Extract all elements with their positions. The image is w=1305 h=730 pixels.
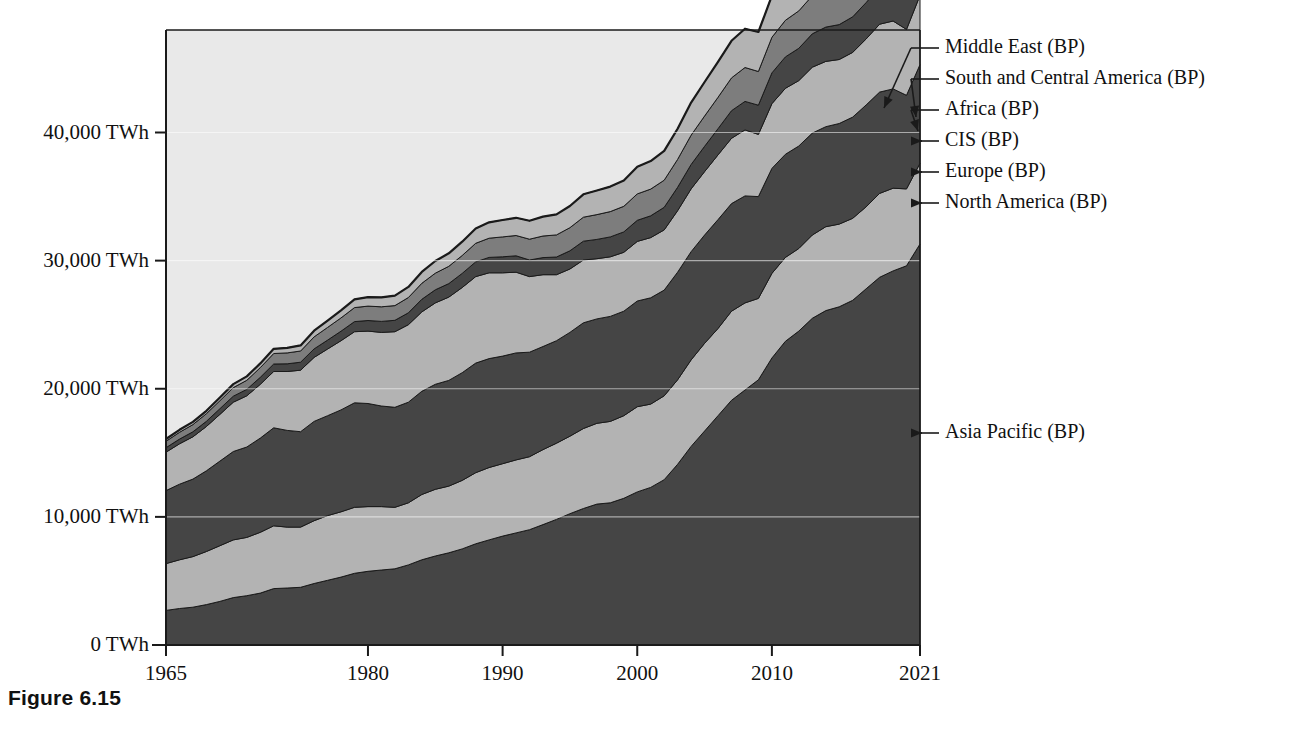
callout-label-europe: Europe (BP) <box>945 159 1046 182</box>
figure-caption: Figure 6.15 <box>8 686 121 710</box>
stacked-area-chart <box>0 0 1305 730</box>
callout-label-north-america: North America (BP) <box>945 190 1107 213</box>
callout-label-africa: Africa (BP) <box>945 97 1039 120</box>
y-tick-label: 30,000 TWh <box>43 248 149 273</box>
callout-label-asia-pacific: Asia Pacific (BP) <box>945 420 1085 443</box>
x-tick-label: 1965 <box>121 661 211 686</box>
y-tick-label: 10,000 TWh <box>43 504 149 529</box>
y-tick-label: 0 TWh <box>90 632 149 657</box>
callout-label-middle-east: Middle East (BP) <box>945 35 1085 58</box>
x-tick-label: 2010 <box>727 661 817 686</box>
y-tick-label: 40,000 TWh <box>43 120 149 145</box>
x-tick-label: 2000 <box>592 661 682 686</box>
callout-label-south-central-america: South and Central America (BP) <box>945 66 1205 89</box>
y-tick-label: 20,000 TWh <box>43 376 149 401</box>
figure-container: 0 TWh10,000 TWh20,000 TWh30,000 TWh40,00… <box>0 0 1305 730</box>
x-tick-label: 1980 <box>323 661 413 686</box>
x-tick-label: 1990 <box>458 661 548 686</box>
callout-label-cis: CIS (BP) <box>945 128 1019 151</box>
x-tick-label: 2021 <box>875 661 965 686</box>
